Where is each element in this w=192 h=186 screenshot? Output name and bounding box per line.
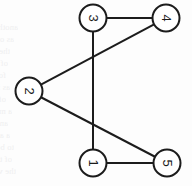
graph-node-5[interactable]: 5	[154, 150, 181, 177]
graph-canvas: 34215	[0, 0, 192, 186]
node-label-1: 1	[86, 159, 101, 166]
graph-edge-2-4	[41, 24, 154, 84]
graph-node-2[interactable]: 2	[16, 78, 43, 105]
graph-node-4[interactable]: 4	[153, 5, 180, 32]
edge-group	[41, 18, 155, 163]
node-group: 34215	[16, 5, 181, 177]
node-label-5: 5	[160, 159, 175, 166]
graph-node-3[interactable]: 3	[80, 5, 107, 32]
node-label-3: 3	[86, 14, 101, 21]
node-label-2: 2	[22, 87, 37, 94]
graph-edge-2-5	[41, 97, 155, 157]
node-label-4: 4	[159, 14, 174, 21]
graph-node-1[interactable]: 1	[80, 150, 107, 177]
graph-figure: another of theas one of the mostthe conn…	[0, 0, 192, 186]
